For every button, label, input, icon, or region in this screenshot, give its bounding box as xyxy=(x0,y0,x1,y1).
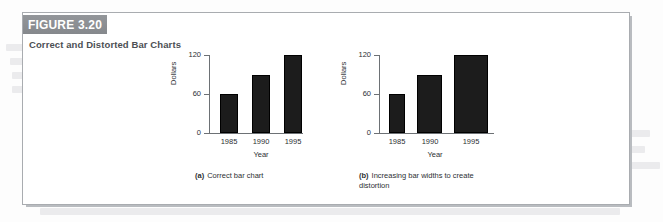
chart-a-caption: (a)Correct bar chart xyxy=(195,171,335,181)
figure-subtitle: Correct and Distorted Bar Charts xyxy=(29,39,181,50)
chart-a-xtick-label-1995: 1995 xyxy=(285,137,302,146)
figure-number-label: FIGURE 3.20 xyxy=(28,18,102,32)
chart-b-bar-1990 xyxy=(417,75,442,134)
figure-banner: FIGURE 3.20 xyxy=(23,15,107,34)
chart-a-ytick-0: 0 xyxy=(204,133,210,134)
chart-b-distorted-bar-chart: Dollars 0 60 120 1985 1990 xyxy=(343,55,493,147)
chart-a-ytick-label-120: 120 xyxy=(188,50,201,59)
chart-a-ytick-label-0: 0 xyxy=(197,128,201,137)
chart-b-x-axis-label: Year xyxy=(427,150,442,159)
chart-a-bars xyxy=(210,55,330,133)
chart-a-plot-area: Dollars 0 60 120 1985 1990 xyxy=(173,55,323,147)
chart-a-y-axis-label: Dollars xyxy=(169,62,178,85)
chart-a-caption-tag: (a) xyxy=(195,171,204,180)
chart-b-caption: (b)Increasing bar widths to create disto… xyxy=(359,171,479,191)
chart-b-bars xyxy=(380,55,500,133)
chart-b-xtick-label-1990: 1990 xyxy=(422,137,439,146)
chart-b-ytick-label-120: 120 xyxy=(358,50,371,59)
chart-b-xtick-label-1995: 1995 xyxy=(463,137,480,146)
chart-b-bar-1995 xyxy=(454,55,488,133)
chart-b-bar-1985 xyxy=(389,94,405,133)
chart-a-xtick-label-1990: 1990 xyxy=(253,137,270,146)
chart-b-xtick-label-1985: 1985 xyxy=(389,137,406,146)
chart-a-correct-bar-chart: Dollars 0 60 120 1985 1990 xyxy=(173,55,323,147)
chart-a-x-axis-label: Year xyxy=(253,150,268,159)
chart-a-bar-1990 xyxy=(252,75,270,134)
chart-a-bar-1995 xyxy=(284,55,302,133)
chart-b-x-axis xyxy=(379,133,494,134)
chart-a-x-axis xyxy=(209,133,303,134)
figure-box: FIGURE 3.20 Correct and Distorted Bar Ch… xyxy=(22,12,630,205)
chart-b-ytick-label-60: 60 xyxy=(363,89,371,98)
chart-b-ytick-label-0: 0 xyxy=(367,128,371,137)
chart-b-plot-area: Dollars 0 60 120 1985 1990 xyxy=(343,55,493,147)
chart-b-caption-tag: (b) xyxy=(359,171,369,180)
chart-b-caption-text: Increasing bar widths to create distorti… xyxy=(359,171,474,190)
charts-row: Dollars 0 60 120 1985 1990 xyxy=(23,55,629,205)
chart-b-y-axis-label: Dollars xyxy=(339,62,348,85)
chart-b-ytick-0: 0 xyxy=(374,133,380,134)
chart-a-xtick-label-1985: 1985 xyxy=(221,137,238,146)
chart-a-bar-1985 xyxy=(220,94,238,133)
chart-a-ytick-label-60: 60 xyxy=(193,89,201,98)
chart-a-caption-text: Correct bar chart xyxy=(207,171,263,180)
